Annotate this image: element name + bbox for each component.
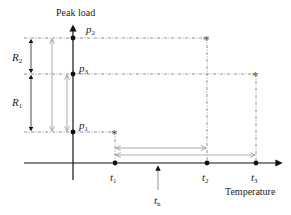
p2-dot — [71, 36, 76, 41]
diagram-canvas — [0, 0, 291, 215]
t1-label: t1 — [110, 172, 117, 185]
dashed-guides — [24, 38, 256, 163]
r2-label: R2 — [12, 52, 22, 65]
points — [71, 36, 259, 166]
asterisk-t2-p2: * — [203, 33, 210, 46]
asterisk-t3-p3: * — [252, 69, 259, 82]
y-axis-label: Peak load — [56, 8, 95, 18]
t3-label: t3 — [251, 172, 258, 185]
t2-dot — [205, 161, 210, 166]
asterisk-t1-p1: * — [111, 127, 118, 140]
p1-dot — [71, 130, 76, 135]
p3-dot — [71, 72, 76, 77]
axes — [24, 28, 279, 180]
r1-label: R1 — [12, 97, 22, 110]
p3-label: p3 — [79, 63, 88, 76]
peak-load-temperature-diagram: * * * Peak load Temperature p2 p3 p1 R2 … — [0, 0, 291, 215]
t3-dot — [254, 161, 259, 166]
t2-label: t2 — [202, 172, 209, 185]
p2-label: p2 — [86, 24, 95, 37]
p1-label: p1 — [79, 120, 88, 133]
x-axis-label: Temperature — [225, 187, 275, 197]
t1-dot — [113, 161, 118, 166]
th-label: th — [154, 195, 161, 208]
